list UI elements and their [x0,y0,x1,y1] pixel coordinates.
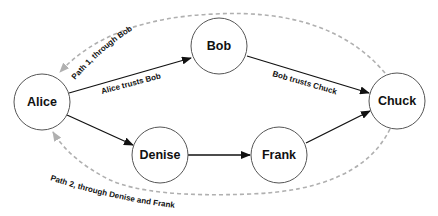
trust-path-diagram: Alice Bob Chuck Denise Frank Alice trust… [0,0,438,216]
node-denise[interactable]: Denise [132,127,188,183]
node-chuck[interactable]: Chuck [369,73,425,129]
node-alice[interactable]: Alice [14,74,70,130]
node-alice-label: Alice [27,95,57,109]
path1-label-text: Path 1, through Bob [70,24,134,81]
node-denise-label: Denise [140,148,181,162]
node-frank-label: Frank [262,148,296,162]
node-frank[interactable]: Frank [251,127,307,183]
edge-alice-denise [67,115,133,145]
node-bob[interactable]: Bob [191,18,247,74]
path2-dashed-arrow [53,129,390,195]
node-chuck-label: Chuck [378,94,416,108]
node-bob-label: Bob [207,39,232,53]
edge-frank-chuck [306,111,370,143]
path1-label: Path 1, through Bob [70,24,134,81]
